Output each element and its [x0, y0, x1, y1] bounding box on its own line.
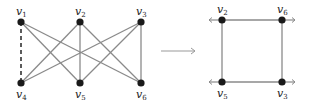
graph-node: [17, 79, 24, 86]
graph-node: [278, 78, 285, 85]
graph-node: [218, 78, 225, 85]
graph-transformation-diagram: v1v2v3v4v5v6 v2v6v5v3: [0, 0, 316, 102]
right-graph-nodes: v2v6v5v3: [217, 3, 288, 101]
transformation-arrow-icon: [161, 48, 195, 54]
graph-node: [137, 18, 144, 25]
node-label: v5: [217, 87, 228, 101]
node-label: v4: [16, 88, 27, 102]
node-label: v6: [277, 3, 288, 17]
graph-node: [76, 79, 83, 86]
right-graph-edges: [209, 18, 295, 85]
node-label: v5: [75, 88, 86, 102]
node-label: v6: [136, 88, 147, 102]
graph-node: [76, 18, 83, 25]
left-graph-edges: [21, 22, 141, 83]
node-label: v2: [217, 3, 228, 17]
graph-node: [278, 16, 285, 23]
node-label: v1: [16, 5, 27, 19]
node-label: v3: [277, 87, 288, 101]
graph-node: [17, 18, 24, 25]
node-label: v2: [75, 5, 86, 19]
graph-node: [137, 79, 144, 86]
node-label: v3: [136, 5, 147, 19]
graph-node: [218, 16, 225, 23]
